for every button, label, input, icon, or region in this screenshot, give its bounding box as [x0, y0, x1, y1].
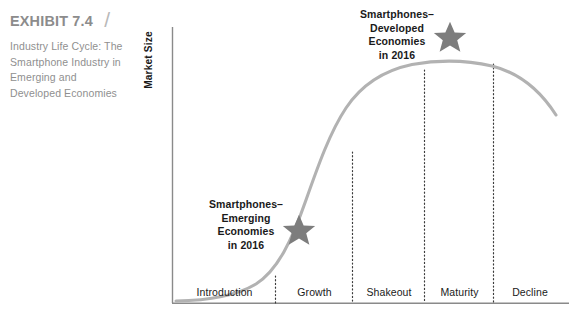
annotation-emerging-line-3: Economies: [205, 225, 287, 239]
annotation-developed-line-4: in 2016: [356, 49, 438, 63]
annotation-developed-line-1: Smartphones–: [356, 8, 438, 22]
annotation-emerging-line-4: in 2016: [205, 239, 287, 253]
annotation-emerging-line-1: Smartphones–: [205, 198, 287, 212]
stage-label-growth: Growth: [276, 286, 353, 298]
exhibit-figure: EXHIBIT 7.4 / Industry Life Cycle: The S…: [0, 0, 569, 318]
stage-label-decline: Decline: [494, 286, 566, 298]
stage-label-introduction: Introduction: [173, 286, 276, 298]
star-marker-developed: [434, 22, 466, 52]
annotation-developed-economies: Smartphones– Developed Economies in 2016: [356, 8, 438, 62]
life-cycle-curve: [176, 61, 556, 301]
annotation-emerging-economies: Smartphones– Emerging Economies in 2016: [205, 198, 287, 252]
stage-label-maturity: Maturity: [425, 286, 494, 298]
annotation-developed-line-3: Economies: [356, 35, 438, 49]
star-marker-emerging: [283, 215, 315, 245]
annotation-emerging-line-2: Emerging: [205, 212, 287, 226]
annotation-developed-line-2: Developed: [356, 22, 438, 36]
stage-label-shakeout: Shakeout: [353, 286, 425, 298]
plot-area: [0, 0, 569, 318]
